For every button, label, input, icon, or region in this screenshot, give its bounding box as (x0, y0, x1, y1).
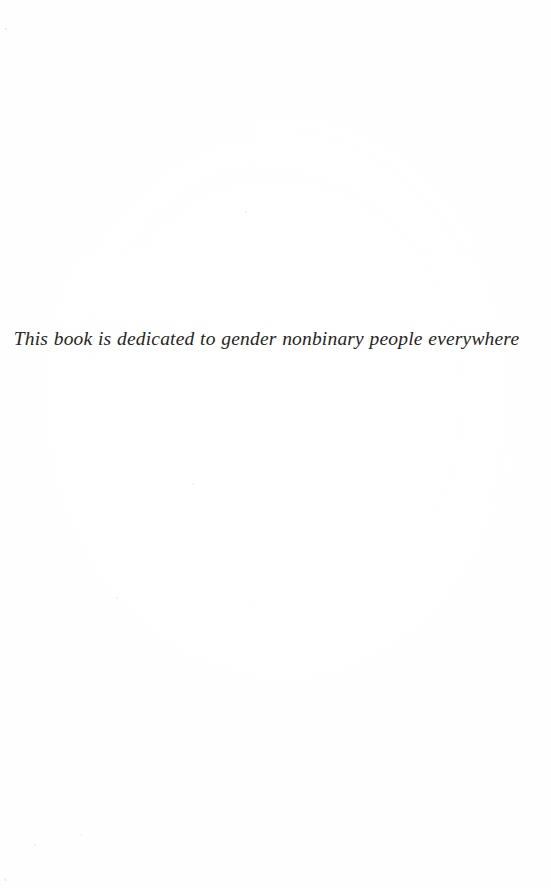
speck-upper-mid (245, 211, 247, 213)
speck-mid-right (192, 483, 194, 485)
speck-bottom-mid (80, 834, 82, 836)
speck-bottom-edge (4, 878, 7, 881)
dedication-page: This book is dedicated to gender nonbina… (0, 0, 551, 888)
paper-texture (0, 0, 551, 888)
dedication-block: This book is dedicated to gender nonbina… (0, 327, 551, 351)
speck-bottom-left (34, 844, 36, 846)
speck-lower-left (116, 597, 118, 599)
dedication-text: This book is dedicated to gender nonbina… (14, 327, 520, 351)
speck-top-left (5, 28, 7, 30)
